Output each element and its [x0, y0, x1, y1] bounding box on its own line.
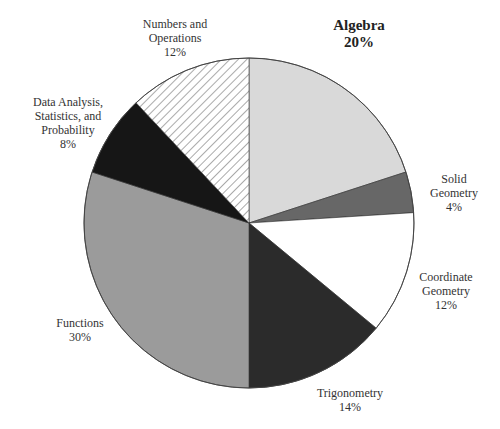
label-data-pct: 8%	[18, 137, 118, 151]
label-coord-line1: Coordinate	[403, 270, 489, 284]
label-solid-line2: Geometry	[418, 186, 490, 200]
label-trigonometry: Trigonometry 14%	[300, 386, 400, 414]
label-numbers-line1: Numbers and	[130, 17, 220, 31]
label-data-line3: Probability	[18, 123, 118, 137]
label-functions-pct: 30%	[40, 330, 120, 344]
label-algebra-pct: 20%	[318, 34, 400, 51]
label-numbers-pct: 12%	[130, 45, 220, 59]
label-data-line2: Statistics, and	[18, 109, 118, 123]
label-trig-pct: 14%	[300, 400, 400, 414]
label-coordinate-geometry: Coordinate Geometry 12%	[403, 270, 489, 312]
label-data-analysis: Data Analysis, Statistics, and Probabili…	[18, 95, 118, 151]
label-coord-pct: 12%	[403, 298, 489, 312]
label-algebra-name: Algebra	[318, 17, 400, 34]
label-solid-geometry: Solid Geometry 4%	[418, 172, 490, 214]
label-data-line1: Data Analysis,	[18, 95, 118, 109]
label-coord-line2: Geometry	[403, 284, 489, 298]
label-functions-name: Functions	[40, 316, 120, 330]
label-algebra: Algebra 20%	[318, 17, 400, 51]
label-numbers-operations: Numbers and Operations 12%	[130, 17, 220, 59]
label-numbers-line2: Operations	[130, 31, 220, 45]
label-solid-pct: 4%	[418, 200, 490, 214]
label-functions: Functions 30%	[40, 316, 120, 344]
label-solid-line1: Solid	[418, 172, 490, 186]
pie-slices	[84, 58, 414, 388]
label-trig-name: Trigonometry	[300, 386, 400, 400]
pie-chart	[0, 0, 500, 429]
